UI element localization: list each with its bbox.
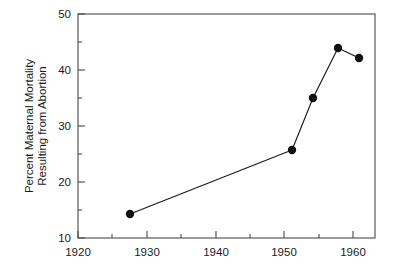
line-chart: 50 40 30 20 10 1920 1930 1940 1950 1960 …: [0, 0, 401, 276]
data-point: [334, 44, 342, 52]
y-tick-label-20: 20: [58, 176, 71, 188]
y-tick-label-40: 40: [58, 64, 71, 76]
y-axis-title-line-1: Percent Maternal Mortality: [23, 59, 35, 193]
data-point: [126, 210, 134, 218]
y-tick-label-30: 30: [58, 120, 71, 132]
y-tick-label-10: 10: [58, 232, 71, 244]
x-tick-label-1930: 1930: [134, 246, 160, 258]
plot-frame: [78, 14, 375, 238]
y-axis-major-ticks: [78, 14, 85, 238]
x-tick-label-1960: 1960: [340, 246, 366, 258]
x-tick-label-1940: 1940: [203, 246, 229, 258]
data-point: [288, 146, 296, 154]
x-tick-label-1920: 1920: [65, 246, 91, 258]
data-point: [309, 94, 317, 102]
y-tick-label-50: 50: [58, 8, 71, 20]
series-line: [130, 48, 359, 214]
x-tick-label-1950: 1950: [271, 246, 297, 258]
chart-figure: 50 40 30 20 10 1920 1930 1940 1950 1960 …: [0, 0, 401, 276]
y-axis-title-line-2: Resulting from Abortion: [36, 66, 48, 186]
data-point: [355, 54, 363, 62]
x-axis-major-ticks: [78, 231, 353, 238]
